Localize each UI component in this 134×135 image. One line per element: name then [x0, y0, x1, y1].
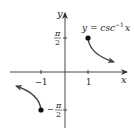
y-tick-label-pi2-den: 2	[55, 38, 60, 47]
equation-exponent: −1	[115, 21, 124, 28]
equation-label: y = csc−1x	[81, 21, 130, 33]
endpoint-dot-lower	[38, 107, 43, 112]
x-axis-label: x	[121, 74, 127, 85]
csc-inverse-graph: y x −1 1 π 2 − π 2 y = csc−1x	[0, 0, 134, 135]
y-tick-label-neg-pi2-den: 2	[56, 110, 61, 119]
equation-variable: x	[125, 23, 130, 33]
curve-lower-branch	[16, 86, 41, 110]
endpoint-dot-upper	[85, 35, 90, 40]
y-axis-label: y	[56, 8, 63, 19]
x-tick-label-1: 1	[86, 77, 91, 87]
x-tick-label-neg1: −1	[35, 77, 48, 87]
graph-canvas: y x −1 1 π 2 − π 2 y = csc−1x	[0, 0, 134, 135]
y-tick-label-neg-pi2-num: π	[55, 101, 62, 110]
y-tick-label-pi2-num: π	[54, 29, 61, 38]
curve-upper-branch	[88, 38, 114, 62]
equation-text: y = csc	[81, 23, 115, 33]
y-tick-label-neg-pi2-sign: −	[47, 105, 54, 114]
